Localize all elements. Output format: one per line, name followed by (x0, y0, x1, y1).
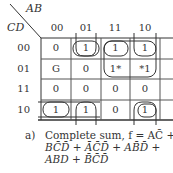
kmap-cell: 0 (71, 59, 101, 79)
kmap-cell: *1 (130, 59, 160, 79)
kmap-cell: 0 (41, 38, 71, 58)
col-header: 00 (42, 22, 72, 33)
row-header: 11 (8, 83, 30, 94)
col-header: 10 (130, 22, 160, 33)
kmap-cell: 0 (101, 100, 130, 120)
kmap-cell: 0 (130, 79, 160, 99)
kmap-cell: G (41, 59, 71, 79)
kmap-cell: 1 (41, 100, 71, 120)
row-header: 00 (8, 42, 30, 53)
row-header: 10 (8, 104, 30, 115)
col-variable-label: AB (26, 2, 42, 15)
row-header: 01 (8, 63, 30, 74)
kmap-cell: 1 (101, 38, 130, 58)
col-header: 01 (71, 22, 101, 33)
kmap-cell: 1 (130, 100, 160, 120)
caption-line-3: ABD + B̄C̄D̄ (45, 153, 108, 165)
caption-line-1: Complete sum, f = AC̄ + (45, 129, 173, 141)
col-header: 11 (100, 22, 130, 33)
row-variable-label: CD (7, 21, 24, 34)
kmap-cell: 1 (130, 38, 160, 58)
kmap-cell: 0 (71, 79, 101, 99)
caption-line-2: BC̄D̄ + ĀC̄D̄ + AB̄D̄ + (45, 141, 160, 153)
kmap-cell: 1 (71, 100, 101, 120)
kmap-cell: 1* (101, 59, 130, 79)
kmap-cell: 1 (71, 38, 101, 58)
caption-label: a) (25, 129, 35, 141)
kmap-cell: 0 (101, 79, 130, 99)
kmap-cell: 0 (41, 79, 71, 99)
